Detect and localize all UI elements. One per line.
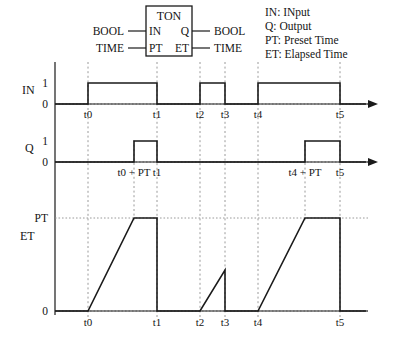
- in-tick-t5: t5: [336, 108, 345, 120]
- in-tick-t2: t2: [196, 108, 205, 120]
- in-tick-t0: t0: [84, 108, 93, 120]
- signal-in: IN 1 0 t0 t1 t2 t3 t4 t5: [22, 77, 378, 120]
- block-input-type-bool: BOOL: [93, 25, 124, 37]
- block-port-et: ET: [175, 42, 189, 54]
- block-port-pt: PT: [149, 42, 162, 54]
- q-waveform: [55, 141, 366, 162]
- ton-block-name: TON: [157, 9, 182, 23]
- et-tick-t0: t0: [84, 316, 93, 328]
- q-tick-t1: t1: [153, 166, 162, 178]
- block-output-type-time: TIME: [214, 42, 242, 54]
- block-input-type-time: TIME: [96, 42, 124, 54]
- q-level-0: 0: [42, 156, 48, 168]
- et-level-pt: PT: [35, 212, 48, 224]
- signal-label-q: Q: [25, 141, 34, 155]
- timing-diagram-canvas: TON IN Q PT ET BOOL TIME BOOL TIME IN: I…: [0, 0, 393, 341]
- et-tick-t2: t2: [196, 316, 205, 328]
- q-level-1: 1: [42, 135, 48, 147]
- in-level-1: 1: [42, 77, 48, 89]
- signal-et: ET PT 0 t0 t1 t2 t3 t4 t5: [20, 212, 368, 328]
- legend-item-et: ET: Elapsed Time: [265, 48, 347, 61]
- in-waveform: [55, 83, 366, 104]
- legend-item-in: IN: INput: [265, 6, 311, 19]
- in-level-0: 0: [42, 98, 48, 110]
- block-port-in: IN: [149, 25, 162, 37]
- time-guide-lines: [88, 62, 340, 318]
- et-tick-t1: t1: [153, 316, 162, 328]
- q-axis-arrow: [368, 158, 378, 166]
- et-tick-t5: t5: [336, 316, 345, 328]
- block-port-q: Q: [181, 25, 190, 37]
- signal-label-et: ET: [20, 229, 35, 243]
- q-tick-t5: t5: [336, 166, 345, 178]
- signal-label-in: IN: [22, 83, 35, 97]
- ton-timing-diagram-figure: TON IN Q PT ET BOOL TIME BOOL TIME IN: I…: [0, 0, 393, 341]
- block-output-type-bool: BOOL: [214, 25, 245, 37]
- q-tick-t0-plus-pt: t0 + PT: [117, 166, 150, 178]
- q-tick-t4-plus-pt: t4 + PT: [288, 166, 321, 178]
- et-tick-t4: t4: [254, 316, 263, 328]
- in-tick-t1: t1: [153, 108, 162, 120]
- legend: IN: INput Q: Output PT: Preset Time ET: …: [265, 6, 347, 61]
- signal-q: Q 1 0 t0 + PT t1 t4 + PT t5: [25, 135, 378, 178]
- ton-function-block: TON IN Q PT ET BOOL TIME BOOL TIME: [93, 6, 246, 56]
- in-tick-t3: t3: [221, 108, 230, 120]
- in-tick-t4: t4: [254, 108, 263, 120]
- in-axis-arrow: [368, 100, 378, 108]
- legend-item-q: Q: Output: [265, 20, 312, 33]
- legend-item-pt: PT: Preset Time: [265, 34, 339, 46]
- et-tick-t3: t3: [221, 316, 230, 328]
- et-level-0: 0: [42, 305, 48, 317]
- et-waveform: [55, 218, 366, 311]
